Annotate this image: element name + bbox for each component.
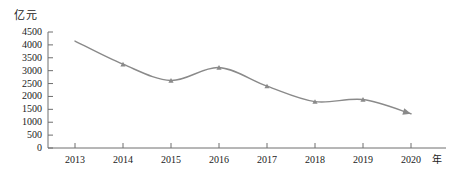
data-series [75, 41, 412, 117]
line-chart: 亿元 年 05001000150020002500300035004000450… [0, 0, 454, 182]
series-end-arrow-icon [402, 108, 412, 117]
axes [48, 32, 446, 148]
plot-area [0, 0, 454, 182]
series-line [75, 41, 411, 114]
